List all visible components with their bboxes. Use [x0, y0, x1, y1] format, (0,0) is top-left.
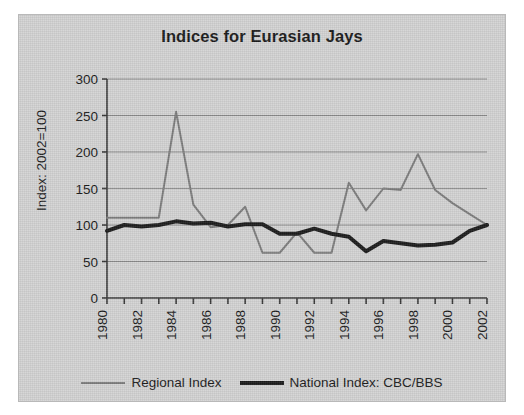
chart-legend: Regional Index National Index: CBC/BBS	[19, 375, 505, 390]
chart-figure: Indices for Eurasian Jays Index: 2002=10…	[18, 14, 506, 402]
legend-line-national-icon	[240, 381, 284, 385]
x-axis-tick-label: 1994	[337, 310, 352, 341]
x-axis-tick-label: 1986	[199, 310, 214, 340]
x-axis-tick-label: 1982	[130, 310, 145, 340]
y-axis-tick-label: 150	[75, 182, 98, 197]
y-axis-tick-label: 300	[75, 72, 98, 87]
y-axis-tick-label: 250	[75, 109, 98, 124]
plot-area: 0501001502002503001980198219841986198819…	[19, 15, 507, 403]
y-axis-tick-label: 100	[75, 218, 98, 233]
series-line-national	[107, 221, 487, 251]
x-axis-tick-label: 1992	[302, 310, 317, 340]
y-axis-tick-label: 0	[90, 291, 98, 306]
y-axis-tick-label: 200	[75, 145, 98, 160]
x-axis-tick-label: 1988	[233, 310, 248, 340]
legend-line-regional-icon	[81, 382, 125, 384]
x-axis-tick-label: 1996	[371, 310, 386, 340]
x-axis-tick-label: 1984	[164, 310, 179, 341]
legend-item-regional: Regional Index	[81, 375, 221, 390]
legend-label-national: National Index: CBC/BBS	[290, 375, 443, 390]
x-axis-tick-label: 1998	[406, 310, 421, 340]
legend-item-national: National Index: CBC/BBS	[240, 375, 443, 390]
x-axis-tick-label: 2002	[475, 310, 490, 340]
x-axis-tick-label: 2000	[440, 310, 455, 340]
x-axis-tick-label: 1990	[268, 310, 283, 340]
y-axis-tick-label: 50	[83, 255, 98, 270]
legend-label-regional: Regional Index	[131, 375, 221, 390]
series-line-regional	[107, 112, 487, 253]
x-axis-tick-label: 1980	[95, 310, 110, 340]
